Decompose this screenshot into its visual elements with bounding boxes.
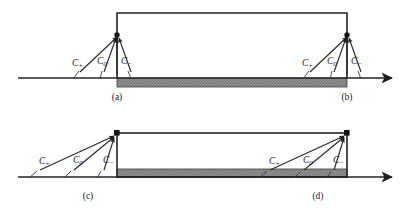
panel-group-top: C+ C0 C− (a)	[18, 13, 392, 103]
hatched-band-top	[117, 78, 347, 87]
apex-point-d	[344, 130, 350, 136]
caption-c: (c)	[83, 191, 94, 202]
node-c: C+ C0 C− (c)	[29, 130, 120, 202]
node-d: C+ C0 C− (d)	[259, 130, 350, 202]
label-c-plus-a: C+	[72, 58, 83, 70]
caption-a: (a)	[112, 92, 123, 103]
label-c-zero-b: C0	[327, 56, 337, 68]
hatched-band-bottom	[117, 169, 347, 177]
label-c-plus-b: C+	[302, 58, 313, 70]
label-c-minus-d: C−	[333, 155, 344, 167]
caption-d: (d)	[312, 191, 323, 202]
caption-b: (b)	[341, 92, 352, 103]
label-c-minus-a: C−	[121, 56, 132, 68]
label-c-minus-c: C−	[103, 155, 114, 167]
label-c-minus-b: C−	[351, 56, 362, 68]
characteristics-diagram: C+ C0 C− (a)	[0, 0, 410, 218]
label-c-zero-c: C0	[73, 155, 83, 167]
figure-container: C+ C0 C− (a)	[0, 0, 410, 218]
label-c-plus-d: C+	[269, 156, 280, 168]
node-a: C+ C0 C− (a)	[72, 32, 132, 103]
node-b: C+ C0 C− (b)	[302, 32, 362, 103]
label-c-plus-c: C+	[39, 156, 50, 168]
label-c-zero-d: C0	[303, 155, 313, 167]
ray-c-plus-a	[80, 37, 117, 72]
apex-point-c	[114, 130, 120, 136]
panel-group-bottom: C+ C0 C− (c) C+	[18, 130, 392, 202]
apex-point-b	[344, 32, 349, 37]
apex-point-a	[114, 32, 119, 37]
label-c-zero-a: C0	[97, 56, 107, 68]
ray-c-plus-b	[310, 37, 347, 72]
